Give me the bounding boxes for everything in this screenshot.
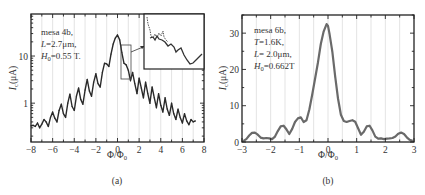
data-point (128, 70, 129, 71)
y-tick-label: 30 (230, 29, 240, 39)
data-point (193, 121, 194, 122)
data-point (343, 120, 344, 121)
x-tick-label: −6 (48, 145, 58, 155)
data-point (74, 110, 75, 111)
data-point (315, 78, 316, 79)
data-point (398, 133, 399, 134)
data-point (67, 103, 68, 104)
x-tick-label: 2 (137, 145, 142, 155)
data-point (340, 114, 341, 115)
y-tick-label: 1 (23, 99, 28, 109)
data-point (294, 121, 295, 122)
data-point (102, 72, 103, 73)
b-y-axis-label: Ic(μA) (218, 66, 229, 91)
y-tick-label: 10 (230, 101, 240, 111)
data-point (126, 64, 127, 65)
data-point (95, 73, 96, 74)
data-point (269, 138, 270, 139)
b-annotation-line3: L= 2.0μm, (253, 49, 292, 59)
data-point (243, 140, 244, 141)
data-point (134, 83, 135, 84)
data-point (383, 138, 384, 139)
data-point (312, 94, 313, 95)
data-point (366, 126, 367, 127)
a-x-axis-label: Φ/Φ0 (107, 150, 127, 161)
data-point (188, 124, 189, 125)
data-point (52, 111, 53, 112)
data-point (289, 133, 290, 134)
data-point (327, 25, 328, 26)
data-point (160, 105, 161, 106)
data-point (115, 38, 116, 39)
b-panel-label: (b) (322, 176, 333, 187)
data-point (169, 115, 170, 116)
data-point (50, 117, 51, 118)
data-point (46, 121, 47, 122)
data-point (80, 99, 81, 100)
x-tick-label: −4 (69, 145, 79, 155)
b-annotation-line4: H0=0.662T (253, 61, 295, 72)
x-tick-label: −2 (266, 145, 276, 155)
panel-b: −3−2−101230102030 mesa 6b, T=1.6K, L= 2.… (218, 15, 417, 187)
data-point (190, 119, 191, 120)
data-point (332, 51, 333, 52)
data-point (306, 120, 307, 121)
data-point (117, 34, 118, 35)
x-tick-label: −2 (91, 145, 101, 155)
x-tick-label: 6 (180, 145, 185, 155)
data-point (260, 137, 261, 138)
data-point (143, 97, 144, 98)
data-point (303, 121, 304, 122)
data-point (389, 138, 390, 139)
data-point (409, 139, 410, 140)
data-point (323, 31, 324, 32)
data-point (147, 93, 148, 94)
data-point (300, 117, 301, 118)
data-point (43, 119, 44, 120)
data-point (246, 138, 247, 139)
data-point (156, 107, 157, 108)
b-x-axis-label: Φ/Φ0 (318, 150, 338, 161)
data-point (406, 137, 407, 138)
data-point (39, 127, 40, 128)
data-point (69, 94, 70, 95)
data-point (309, 109, 310, 110)
data-point (249, 135, 250, 136)
data-point (164, 97, 165, 98)
data-point (180, 117, 181, 118)
a-annotation-line3: H0=0.55 T. (40, 51, 81, 62)
data-point (82, 104, 83, 105)
data-point (171, 103, 172, 104)
data-point (106, 63, 107, 64)
data-point (61, 104, 62, 105)
data-point (184, 113, 185, 114)
data-point (317, 62, 318, 63)
data-point (412, 140, 413, 141)
data-point (93, 81, 94, 82)
data-point (89, 91, 90, 92)
data-point (65, 117, 66, 118)
data-point (54, 118, 55, 119)
data-point (104, 63, 105, 64)
data-point (175, 119, 176, 120)
data-point (41, 123, 42, 124)
data-point (337, 98, 338, 99)
data-point (274, 136, 275, 137)
x-tick-label: −8 (26, 145, 36, 155)
data-point (363, 131, 364, 132)
data-point (386, 138, 387, 139)
data-point (35, 126, 36, 127)
data-point (263, 138, 264, 139)
data-point (395, 136, 396, 137)
x-tick-label: −1 (294, 145, 304, 155)
y-tick-label: 20 (230, 65, 240, 75)
data-point (141, 87, 142, 88)
data-point (87, 79, 88, 80)
data-point (286, 129, 287, 130)
data-point (119, 39, 120, 40)
data-point (280, 126, 281, 127)
data-point (403, 133, 404, 134)
data-point (297, 118, 298, 119)
data-point (352, 120, 353, 121)
data-point (136, 93, 137, 94)
